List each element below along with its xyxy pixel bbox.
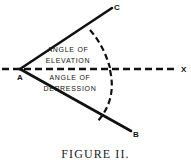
point-label-b: B: [133, 130, 139, 139]
angle-depression-line1: ANGLE OF: [50, 74, 91, 81]
figure-caption: FIGURE II.: [0, 147, 191, 162]
arc-angle-elevation: [90, 30, 110, 68]
axis-label-x: X: [181, 65, 187, 74]
angle-elevation-line2: ELEVATION: [46, 57, 91, 64]
point-label-c: C: [114, 3, 120, 12]
figure-container: A C B X ANGLE OF ELEVATION ANGLE OF DEPR…: [0, 0, 191, 165]
angle-depression-line2: DEPRESSION: [44, 85, 97, 92]
angle-diagram: A C B X ANGLE OF ELEVATION ANGLE OF DEPR…: [0, 0, 191, 165]
angle-elevation-line1: ANGLE OF: [48, 46, 89, 53]
vertex-label-a: A: [17, 73, 23, 82]
